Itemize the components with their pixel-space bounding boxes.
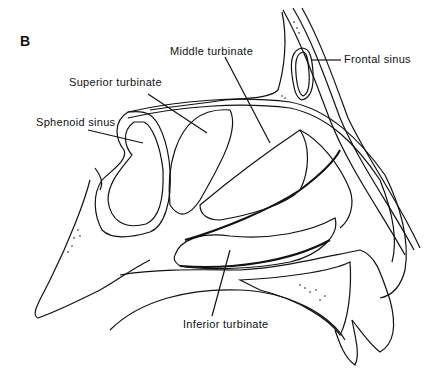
label-frontal-sinus: Frontal sinus (344, 53, 411, 65)
sphenoid-sinus-shape (95, 112, 170, 237)
middle-turbinate-shape (200, 130, 308, 220)
panel-label: B (20, 33, 30, 49)
label-middle-turbinate: Middle turbinate (170, 45, 253, 57)
leader-inferior-turbinate (212, 250, 230, 316)
label-sphenoid-sinus: Sphenoid sinus (36, 116, 115, 128)
anatomy-figure: B Middle turbinate Superior turbinate Sp… (0, 0, 442, 382)
leader-superior-turbinate (148, 94, 207, 133)
label-superior-turbinate: Superior turbinate (69, 76, 162, 88)
superior-turbinate-shape (169, 110, 232, 214)
inferior-turbinate-shape (174, 218, 336, 269)
leader-sphenoid-sinus (88, 130, 143, 143)
bone-stipple (67, 21, 326, 301)
frontal-sinus-shape (291, 48, 313, 100)
label-inferior-turbinate: Inferior turbinate (183, 318, 269, 330)
